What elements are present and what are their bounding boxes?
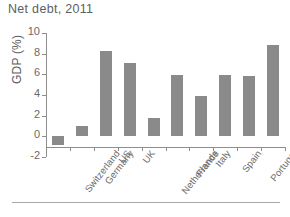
bar-slot bbox=[189, 33, 213, 157]
x-tick-label: Spain bbox=[240, 148, 264, 174]
bottom-divider bbox=[12, 202, 280, 203]
y-tick-label: 4 bbox=[34, 87, 40, 99]
bar-slot bbox=[70, 33, 94, 157]
x-tick-label: UK bbox=[140, 148, 157, 165]
bar[interactable] bbox=[195, 96, 207, 136]
bar[interactable] bbox=[243, 76, 255, 136]
bar[interactable] bbox=[124, 63, 136, 136]
bar-slot bbox=[118, 33, 142, 157]
plot-area: -20246810 bbox=[46, 33, 285, 157]
bar[interactable] bbox=[219, 75, 231, 136]
x-tick-label: Portugal bbox=[268, 148, 290, 183]
bar[interactable] bbox=[100, 51, 112, 137]
bar[interactable] bbox=[267, 45, 279, 136]
bar-slot bbox=[237, 33, 261, 157]
bar-slot bbox=[213, 33, 237, 157]
y-tick-label: 2 bbox=[34, 108, 40, 120]
x-tick-label-group: SwitzerlandGermanyUSUKNetherlandsFranceI… bbox=[46, 148, 285, 208]
x-tick-mark bbox=[285, 147, 286, 151]
y-tick-label: 8 bbox=[34, 46, 40, 58]
bar-slot bbox=[261, 33, 285, 157]
bar[interactable] bbox=[76, 126, 88, 136]
chart-figure: Net debt, 2011 GDP (%) -20246810 Switzer… bbox=[0, 0, 290, 217]
y-tick-label: 0 bbox=[34, 128, 40, 140]
y-tick-label: -2 bbox=[30, 149, 40, 161]
bar[interactable] bbox=[148, 118, 160, 137]
y-tick-label: 6 bbox=[34, 66, 40, 78]
bar-series bbox=[46, 33, 285, 157]
bar[interactable] bbox=[52, 136, 64, 144]
bar-slot bbox=[94, 33, 118, 157]
y-tick-label: 10 bbox=[28, 25, 40, 37]
bar-slot bbox=[142, 33, 166, 157]
y-axis-label: GDP (%) bbox=[10, 0, 24, 84]
bar[interactable] bbox=[171, 75, 183, 136]
bar-slot bbox=[166, 33, 190, 157]
bar-slot bbox=[46, 33, 70, 157]
